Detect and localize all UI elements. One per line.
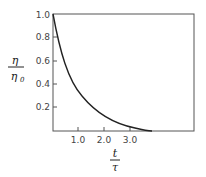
x-axis-label: t τ [110,147,120,174]
y-tick-label: 1.0 [36,10,51,20]
y-axis: 0.2 0.4 0.6 0.8 1.0 [36,10,57,112]
x-axis: 1.0 2.0 3.0 [71,127,138,145]
x-tick-label: 1.0 [71,135,86,145]
y-tick-label: 0.4 [36,79,51,89]
x-label-denominator: τ [112,161,119,174]
y-axis-label: η η 0 [8,54,25,84]
x-tick-label: 2.0 [97,135,112,145]
y-label-numerator: η [12,54,19,67]
y-tick-label: 0.8 [36,32,51,42]
plot-frame [53,14,194,131]
y-tick-label: 0.6 [36,56,51,66]
y-label-subscript: 0 [20,76,25,84]
decay-curve [53,14,152,131]
decay-chart: 0.2 0.4 0.6 0.8 1.0 1.0 2.0 3.0 η η 0 t … [0,0,206,177]
x-label-numerator: t [113,147,118,160]
y-tick-label: 0.2 [36,102,50,112]
y-label-denominator: η [11,70,18,83]
x-tick-label: 3.0 [123,135,138,145]
